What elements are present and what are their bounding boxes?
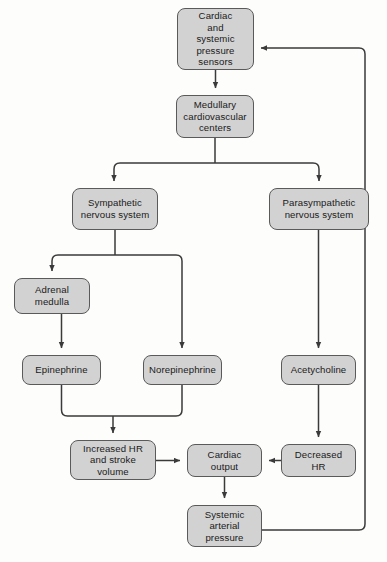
node-cardiac-and-systemic-pressure-sensors[interactable]: Cardiac and systemic pressure sensors xyxy=(177,8,254,70)
edge-medullary-to-parasympathetic xyxy=(215,163,319,181)
edge-sympathetic-to-adrenal xyxy=(52,255,115,271)
flowchart-canvas: Cardiac and systemic pressure sensors Me… xyxy=(0,0,387,562)
node-norepinephrine[interactable]: Norepinephrine xyxy=(143,355,222,385)
node-decreased-hr[interactable]: Decreased HR xyxy=(281,444,356,477)
node-cardiac-output[interactable]: Cardiac output xyxy=(187,444,262,477)
edge-medullary-to-sympathetic xyxy=(114,163,215,181)
edge-sympathetic-to-norepinephrine xyxy=(115,255,182,348)
edge-norepinephrine-merge xyxy=(113,385,182,416)
node-systemic-arterial-pressure[interactable]: Systemic arterial pressure xyxy=(187,505,262,547)
node-sympathetic-nervous-system[interactable]: Sympathetic nervous system xyxy=(72,188,158,230)
node-adrenal-medulla[interactable]: Adrenal medulla xyxy=(14,278,90,314)
node-parasympathetic-nervous-system[interactable]: Parasympathetic nervous system xyxy=(269,188,369,230)
node-increased-hr-and-stroke-volume[interactable]: Increased HR and stroke volume xyxy=(70,440,156,480)
node-epinephrine[interactable]: Epinephrine xyxy=(22,355,101,385)
edge-epinephrine-merge xyxy=(62,385,114,416)
node-acetycholine[interactable]: Acetycholine xyxy=(281,355,356,385)
node-medullary-cardiovascular-centers[interactable]: Medullary cardiovascular centers xyxy=(176,95,254,138)
